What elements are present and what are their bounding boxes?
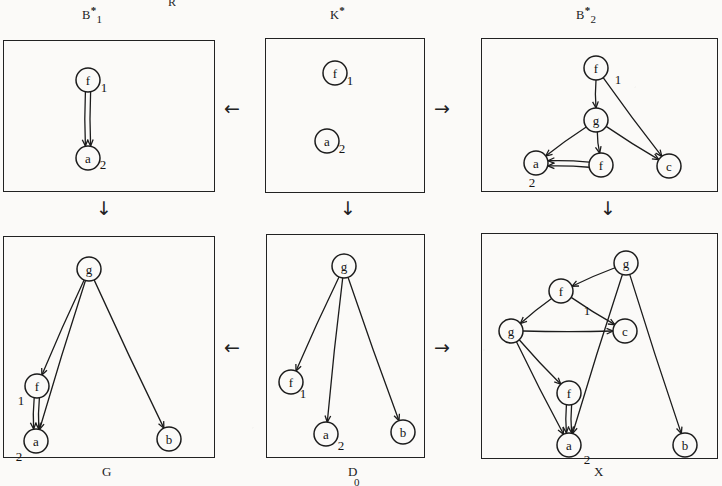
label-b1-sub: 1 [96, 13, 102, 25]
graph-node-a: a [557, 433, 581, 457]
label-k-base: K [330, 8, 339, 22]
graph-g: gf1a2b [3, 236, 215, 458]
svg-text:g: g [508, 324, 515, 339]
arrow-top-left: ← [224, 99, 240, 118]
graph-node-f: f [323, 61, 347, 85]
label-b1-base: B [82, 8, 91, 22]
graph-x: gfgc1fa2b [481, 233, 718, 459]
graph-node-g: g [584, 108, 608, 132]
svg-text:b: b [166, 432, 173, 447]
svg-text:a: a [324, 134, 330, 149]
graph-b2: f1ga2fc [481, 38, 718, 192]
svg-text:f: f [559, 284, 564, 299]
graph-node-g: g [77, 257, 101, 281]
graph-node-index-label: 2 [339, 141, 346, 156]
graph-node-index-label: 2 [16, 449, 23, 464]
arrow-bottom-right: → [434, 338, 450, 357]
svg-text:g: g [341, 259, 348, 274]
label-b2-sub: 2 [590, 13, 596, 25]
graph-node-index-label: 2 [338, 438, 345, 453]
svg-text:a: a [85, 151, 91, 166]
graph-node-index-label: 1 [18, 393, 25, 408]
graph-node-f: f [549, 279, 573, 303]
graph-k: f1a2 [265, 38, 425, 193]
svg-text:a: a [323, 427, 329, 442]
graph-node-index-label: 2 [100, 157, 107, 172]
graph-node-index-label: 1 [615, 72, 622, 87]
graph-node-g: g [499, 319, 523, 343]
graph-node-index-label: 1 [584, 303, 591, 318]
label-b2-base: B [576, 8, 585, 22]
graph-node-f: f [584, 56, 608, 80]
svg-text:f: f [86, 73, 91, 88]
graph-node-b: b [673, 433, 697, 457]
svg-text:f: f [333, 66, 338, 81]
graph-node-a: a [314, 422, 338, 446]
label-k-star: K* [330, 4, 345, 23]
cut-header-text: R [168, 0, 176, 10]
svg-text:f: f [567, 386, 572, 401]
svg-text:a: a [533, 156, 539, 171]
arrow-down-right: ↓ [600, 199, 616, 218]
graph-node-g: g [614, 251, 638, 275]
graph-node-a: a [24, 429, 48, 453]
svg-text:f: f [599, 158, 604, 173]
arrow-top-right: → [434, 99, 450, 118]
svg-text:b: b [400, 425, 407, 440]
graph-node-c: c [613, 319, 637, 343]
svg-text:g: g [623, 256, 630, 271]
svg-text:f: f [289, 375, 294, 390]
graph-node-a: a [315, 129, 339, 153]
graph-node-f: f [589, 153, 613, 177]
graph-node-index-label: 2 [529, 175, 536, 190]
graph-node-f: f [76, 68, 100, 92]
label-b1-star: B*1 [82, 4, 102, 25]
svg-text:a: a [33, 434, 39, 449]
svg-text:f: f [35, 379, 40, 394]
graph-node-f: f [557, 381, 581, 405]
svg-text:g: g [593, 113, 600, 128]
arrow-down-left: ↓ [96, 199, 112, 218]
label-k-star-glyph: * [339, 4, 345, 16]
arrow-bottom-left: ← [224, 338, 240, 357]
caption-d-sub: 0 [354, 476, 360, 486]
graph-node-c: c [657, 154, 681, 178]
graph-node-index-label: 1 [101, 80, 108, 95]
graph-b1: f1a2 [3, 40, 215, 192]
svg-text:c: c [622, 324, 628, 339]
svg-text:a: a [566, 438, 572, 453]
graph-node-index-label: 1 [347, 73, 354, 88]
graph-node-b: b [157, 427, 181, 451]
graph-node-b: b [391, 420, 415, 444]
arrow-down-mid: ↓ [340, 199, 356, 218]
graph-node-g: g [332, 254, 356, 278]
svg-text:g: g [86, 262, 93, 277]
svg-text:b: b [682, 438, 689, 453]
graph-node-index-label: 2 [584, 452, 591, 467]
caption-g: G [102, 464, 111, 480]
graph-node-a: a [76, 146, 100, 170]
svg-text:f: f [594, 61, 599, 76]
graph-d: gf1a2b [266, 234, 425, 458]
graph-node-f: f [25, 374, 49, 398]
graph-node-a: a [524, 151, 548, 175]
graph-node-index-label: 1 [300, 386, 307, 401]
label-b2-star: B*2 [576, 4, 596, 25]
svg-text:c: c [666, 159, 672, 174]
caption-x: X [594, 464, 603, 480]
